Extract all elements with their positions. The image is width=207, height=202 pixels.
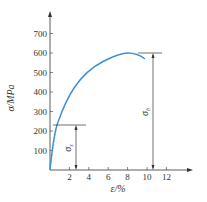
svg-text:200: 200 (34, 126, 48, 136)
x-ticks: 2 4 6 8 10 12 (67, 167, 171, 182)
yield-strength-marker: σs (53, 125, 86, 170)
svg-text:600: 600 (34, 48, 48, 58)
svg-text:700: 700 (34, 29, 48, 39)
svg-text:300: 300 (34, 107, 48, 117)
y-axis-label: σ/MPa (5, 84, 16, 111)
svg-text:500: 500 (34, 68, 48, 78)
svg-text:8: 8 (125, 172, 130, 182)
sigma-b-label: σb (139, 108, 151, 116)
svg-text:100: 100 (34, 146, 48, 156)
sigma-s-label: σs (62, 144, 74, 152)
x-axis-arrow-icon (187, 168, 193, 172)
x-axis-label: ε/% (110, 183, 125, 194)
svg-text:400: 400 (34, 87, 48, 97)
stress-strain-chart: 100 200 300 400 500 600 700 2 4 6 8 10 1… (0, 0, 207, 202)
svg-text:2: 2 (67, 172, 72, 182)
svg-text:4: 4 (87, 172, 92, 182)
svg-text:12: 12 (162, 172, 171, 182)
svg-text:6: 6 (106, 172, 111, 182)
tensile-strength-marker: σb (138, 53, 162, 170)
y-axis-arrow-icon (48, 11, 52, 17)
svg-text:10: 10 (143, 172, 153, 182)
